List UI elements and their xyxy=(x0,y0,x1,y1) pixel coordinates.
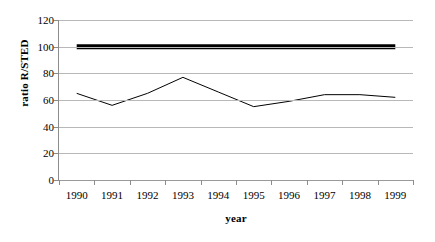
y-tick-label-120: 120 xyxy=(28,15,54,26)
y-tick-mark-20 xyxy=(54,153,59,154)
x-tick-mark-8 xyxy=(342,180,343,185)
x-tick-label-1999: 1999 xyxy=(372,188,418,202)
y-tick-mark-40 xyxy=(54,127,59,128)
line-chart: ratio R/STED 020406080100120 19901991199… xyxy=(0,0,435,242)
y-tick-label-40: 40 xyxy=(28,121,54,132)
x-tick-mark-9 xyxy=(378,180,379,185)
gridline-100 xyxy=(59,47,413,48)
y-tick-label-100: 100 xyxy=(28,41,54,52)
x-tick-mark-5 xyxy=(236,180,237,185)
x-tick-mark-4 xyxy=(201,180,202,185)
y-tick-mark-100 xyxy=(54,47,59,48)
gridline-40 xyxy=(59,127,413,128)
x-tick-mark-2 xyxy=(130,180,131,185)
x-axis-tick-labels: 1990199119921993199419951996199719981999 xyxy=(0,188,435,204)
y-tick-label-0: 0 xyxy=(28,175,54,186)
y-tick-label-20: 20 xyxy=(28,148,54,159)
gridline-80 xyxy=(59,73,413,74)
y-tick-mark-60 xyxy=(54,100,59,101)
y-tick-label-80: 80 xyxy=(28,68,54,79)
y-tick-mark-120 xyxy=(54,20,59,21)
y-tick-mark-80 xyxy=(54,73,59,74)
y-tick-label-60: 60 xyxy=(28,95,54,106)
y-axis-tick-labels: 020406080100120 xyxy=(28,0,54,242)
x-tick-mark-10 xyxy=(413,180,414,185)
x-tick-mark-6 xyxy=(271,180,272,185)
gridline-120 xyxy=(59,20,413,21)
gridline-20 xyxy=(59,153,413,154)
x-tick-mark-3 xyxy=(165,180,166,185)
x-axis-title: year xyxy=(59,212,413,224)
x-tick-mark-7 xyxy=(307,180,308,185)
x-tick-mark-0 xyxy=(59,180,60,185)
plot-area xyxy=(59,20,413,180)
x-tick-mark-1 xyxy=(94,180,95,185)
gridline-60 xyxy=(59,100,413,101)
